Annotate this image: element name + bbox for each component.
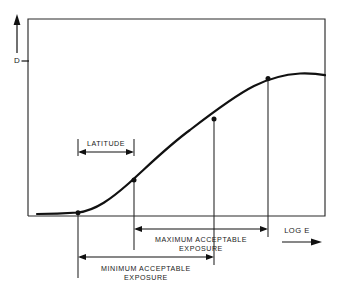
- toe-point-marker: [76, 210, 81, 215]
- y-axis-label: D: [14, 56, 20, 65]
- latitude-annotation: LATITUDE: [78, 139, 134, 156]
- minimum-acceptable-exposure-annotation: MINIMUM ACCEPTABLE EXPOSURE: [78, 254, 214, 282]
- latitude-right-arrowhead: [126, 149, 134, 155]
- mid-point-marker: [212, 117, 217, 122]
- right-arrow-icon: [311, 238, 322, 245]
- latitude-left-arrowhead: [78, 149, 86, 155]
- minimum-label-line1: MINIMUM ACCEPTABLE: [101, 265, 191, 273]
- plot-frame: [28, 19, 325, 216]
- x-axis-label: LOG E: [284, 226, 310, 235]
- maximum-label-line1: MAXIMUM ACCEPTABLE: [155, 236, 247, 244]
- y-axis-indicator: D: [14, 14, 29, 65]
- frame-rect: [28, 19, 325, 216]
- characteristic-curve: [37, 73, 325, 214]
- characteristic-curve-figure: D LATITUDE: [0, 0, 342, 293]
- shoulder-point-marker: [266, 76, 271, 81]
- minimum-label-line2: EXPOSURE: [124, 274, 168, 282]
- maximum-acceptable-exposure-annotation: MAXIMUM ACCEPTABLE EXPOSURE: [134, 226, 268, 253]
- drop-lines: [78, 78, 268, 278]
- latitude-label: LATITUDE: [87, 140, 125, 148]
- figure-canvas: D LATITUDE: [0, 0, 342, 293]
- maximum-label-line2: EXPOSURE: [179, 245, 223, 253]
- minimum-right-arrowhead: [206, 254, 214, 260]
- latitude-upper-marker: [132, 178, 137, 183]
- maximum-right-arrowhead: [260, 226, 268, 232]
- curve-path: [37, 73, 325, 214]
- minimum-left-arrowhead: [78, 254, 86, 260]
- x-axis-indicator: LOG E: [282, 226, 322, 246]
- up-arrow-icon: [14, 14, 21, 25]
- maximum-left-arrowhead: [134, 226, 142, 232]
